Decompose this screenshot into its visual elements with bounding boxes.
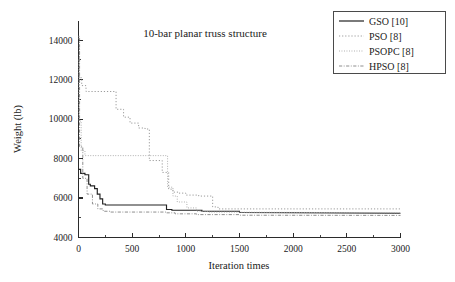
x-tick-label: 3000 [391, 244, 410, 254]
legend-label-pso: PSO [8] [369, 31, 402, 42]
x-axis-ticks [79, 233, 401, 238]
series-line-gso-10 [79, 169, 401, 213]
x-tick-label: 2000 [284, 244, 303, 254]
y-axis-tick-labels: 400060008000100001200014000 [49, 36, 73, 243]
line-chart-svg: 400060008000100001200014000 050010001500… [0, 0, 455, 282]
x-axis-title: Iteration times [209, 260, 270, 271]
y-tick-label: 14000 [49, 36, 73, 46]
y-tick-label: 8000 [54, 154, 73, 164]
y-tick-label: 12000 [49, 75, 73, 85]
x-tick-label: 2500 [337, 244, 356, 254]
y-tick-label: 6000 [54, 193, 73, 203]
legend: GSO [10] PSO [8] PSOPC [8] HPSO [8] [334, 12, 446, 74]
x-axis-tick-labels: 050010001500200025003000 [76, 244, 410, 254]
y-axis-title: Weight (lb) [12, 105, 24, 153]
legend-label-gso: GSO [10] [369, 16, 408, 27]
y-tick-label: 4000 [54, 233, 73, 243]
x-tick-label: 1500 [230, 244, 249, 254]
x-tick-label: 1000 [176, 244, 195, 254]
x-tick-label: 500 [125, 244, 140, 254]
chart-title: 10-bar planar truss structure [143, 27, 267, 39]
series-line-psopc-8 [79, 60, 401, 213]
y-tick-label: 10000 [49, 114, 73, 124]
x-tick-label: 0 [76, 244, 81, 254]
legend-label-hpso: HPSO [8] [369, 61, 409, 72]
legend-label-psopc: PSOPC [8] [369, 46, 414, 57]
chart-figure: 400060008000100001200014000 050010001500… [0, 0, 455, 282]
